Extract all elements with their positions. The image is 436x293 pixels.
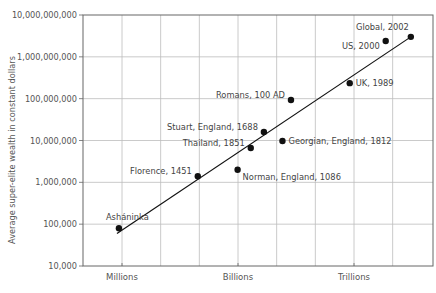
data-point [261,129,267,135]
data-point [234,167,240,173]
point-label: Asháninka [106,212,149,222]
data-point [383,38,389,44]
x-tick-label: Millions [106,272,138,282]
data-point [116,225,122,231]
point-label: Thailand, 1851 [182,138,245,148]
point-label: Florence, 1451 [130,166,192,176]
y-axis-label: Average super-elite wealth in constant d… [7,56,17,244]
point-label: Norman, England, 1086 [243,172,341,182]
data-point [408,34,414,40]
point-label: Global, 2002 [356,22,409,32]
y-tick-label: 100,000 [43,219,77,229]
x-tick-label: Billions [223,272,254,282]
data-point [347,80,353,86]
wealth-scatter-chart: 10,000100,0001,000,00010,000,000100,000,… [0,0,436,293]
y-tick-label: 10,000 [48,261,77,271]
data-point [195,173,201,179]
y-tick-label: 10,000,000,000 [12,10,77,20]
x-tick-label: Trillions [337,272,370,282]
data-points: AsháninkaFlorence, 1451Norman, England, … [106,22,414,232]
y-tick-label: 1,000,000 [35,177,77,187]
y-tick-label: 1,000,000,000 [17,52,77,62]
point-label: UK, 1989 [356,78,394,88]
point-label: Georgian, England, 1812 [288,136,391,146]
point-label: Romans, 100 AD [216,90,285,100]
data-point [248,145,254,151]
point-label: US, 2000 [342,41,380,51]
y-tick-label: 100,000,000 [25,94,77,104]
point-label: Stuart, England, 1688 [167,122,258,132]
data-point [288,97,294,103]
data-point [279,138,285,144]
y-axis-ticks: 10,000100,0001,000,00010,000,000100,000,… [12,10,83,271]
y-tick-label: 10,000,000 [30,136,77,146]
